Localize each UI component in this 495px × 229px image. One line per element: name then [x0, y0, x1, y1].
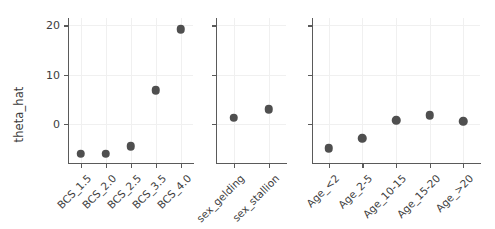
gridline-vertical — [181, 18, 182, 163]
data-point — [358, 134, 367, 143]
data-point — [229, 114, 238, 123]
gridline-vertical — [463, 18, 464, 163]
data-point — [151, 86, 160, 95]
y-axis-tick — [212, 124, 216, 125]
gridline-vertical — [329, 18, 330, 163]
y-axis-tick — [308, 75, 312, 76]
y-axis-tick — [64, 75, 68, 76]
x-axis-tick — [362, 164, 363, 168]
gridline-vertical — [430, 18, 431, 163]
data-point — [264, 105, 273, 114]
y-axis-tick — [212, 75, 216, 76]
x-axis-tick — [156, 164, 157, 168]
gridline-vertical — [396, 18, 397, 163]
y-axis-tick — [64, 25, 68, 26]
y-axis-tick-label: 20 — [34, 19, 60, 32]
x-axis-tick — [181, 164, 182, 168]
y-axis-tick — [212, 25, 216, 26]
y-axis-label: theta_hat — [12, 0, 34, 229]
y-axis-tick-label: 10 — [34, 68, 60, 81]
data-point — [126, 142, 135, 151]
x-axis-tick — [106, 164, 107, 168]
x-axis-tick — [269, 164, 270, 168]
gridline-horizontal — [216, 75, 286, 76]
x-axis-tick — [234, 164, 235, 168]
x-axis-tick — [131, 164, 132, 168]
coefficient-plot-figure: theta_hat 01020BCS_1.5BCS_2.0BCS_2.5BCS_… — [0, 0, 495, 229]
gridline-horizontal — [216, 25, 286, 26]
data-point — [325, 144, 334, 153]
data-point — [101, 149, 110, 158]
y-axis-spine — [216, 18, 217, 164]
x-axis-spine — [216, 163, 287, 164]
data-point — [392, 116, 401, 125]
y-axis-spine — [68, 18, 69, 164]
y-axis-tick — [308, 124, 312, 125]
data-point — [176, 25, 185, 34]
y-axis-tick — [308, 25, 312, 26]
gridline-vertical — [106, 18, 107, 163]
gridline-horizontal — [216, 124, 286, 125]
gridline-vertical — [81, 18, 82, 163]
y-axis-tick-label: 0 — [34, 117, 60, 130]
x-axis-tick — [463, 164, 464, 168]
x-axis-tick — [81, 164, 82, 168]
gridline-vertical — [269, 18, 270, 163]
y-axis-tick — [64, 124, 68, 125]
y-axis-spine — [312, 18, 313, 164]
data-point — [425, 111, 434, 120]
x-axis-tick — [396, 164, 397, 168]
data-point — [459, 117, 468, 126]
x-axis-tick — [430, 164, 431, 168]
gridline-vertical — [234, 18, 235, 163]
x-axis-tick — [329, 164, 330, 168]
data-point — [76, 149, 85, 158]
